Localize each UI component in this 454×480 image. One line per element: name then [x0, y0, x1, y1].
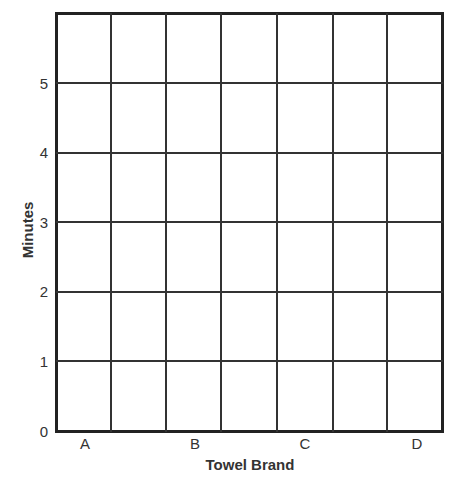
grid-horizontal-line [56, 360, 443, 362]
grid-vertical-line [220, 13, 222, 432]
grid-horizontal-line [56, 82, 443, 84]
bar-chart-grid: 0 1 2 3 4 5 A B C D Towel Brand Minutes [0, 0, 454, 480]
grid-vertical-line [386, 13, 388, 432]
grid-horizontal-line [56, 291, 443, 293]
x-category-label: C [290, 436, 320, 452]
x-category-label: D [402, 436, 432, 452]
y-tick-label: 5 [28, 76, 48, 92]
x-axis-title: Towel Brand [150, 456, 350, 473]
grid-vertical-line [165, 13, 167, 432]
y-tick-label: 2 [28, 284, 48, 300]
grid-horizontal-line [56, 152, 443, 154]
x-category-label: B [180, 436, 210, 452]
grid-vertical-line [110, 13, 112, 432]
grid-horizontal-line [56, 221, 443, 223]
y-axis-title: Minutes [19, 202, 36, 259]
y-tick-label: 1 [28, 354, 48, 370]
grid-vertical-line [332, 13, 334, 432]
y-tick-label: 4 [28, 145, 48, 161]
x-category-label: A [70, 436, 100, 452]
grid-vertical-line [276, 13, 278, 432]
y-tick-label: 0 [28, 424, 48, 440]
